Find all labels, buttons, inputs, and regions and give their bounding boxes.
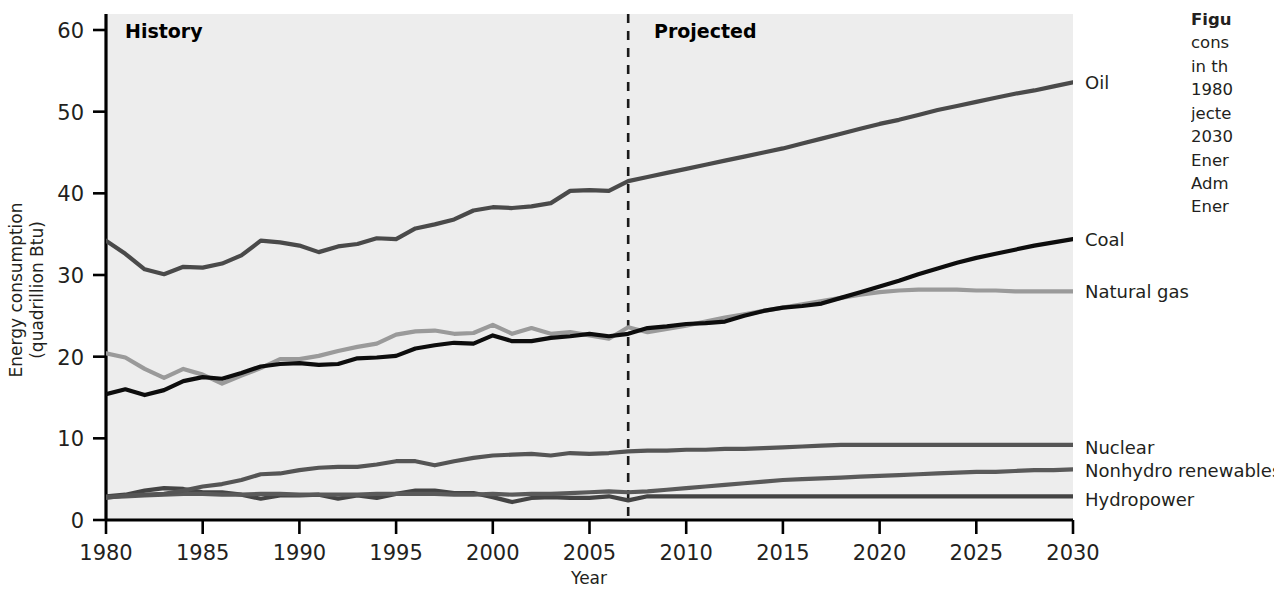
y-tick-label: 30 <box>57 264 84 288</box>
x-axis-ticks: 1980198519901995200020052010201520202025… <box>79 520 1099 565</box>
figure-caption: Figu cons in th 1980 jecte 2030 Ener Adm… <box>1191 8 1274 218</box>
y-tick-label: 40 <box>57 182 84 206</box>
y-tick-label: 20 <box>57 346 84 370</box>
caption-line-3: 1980 <box>1191 78 1274 101</box>
series-label-natural-gas: Natural gas <box>1085 281 1189 302</box>
series-label-nonhydro-renewables: Nonhydro renewables <box>1085 460 1274 481</box>
y-tick-label: 0 <box>71 509 84 533</box>
x-tick-label: 1990 <box>273 541 326 565</box>
series-label-coal: Coal <box>1085 229 1125 250</box>
x-tick-label: 2010 <box>659 541 712 565</box>
energy-consumption-line-chart: 0102030405060 19801985199019952000200520… <box>0 0 1274 593</box>
projected-label: Projected <box>654 20 757 42</box>
figure-root: 0102030405060 19801985199019952000200520… <box>0 0 1274 593</box>
x-tick-label: 2030 <box>1046 541 1099 565</box>
caption-line-5: 2030 <box>1191 125 1274 148</box>
x-tick-label: 2005 <box>563 541 616 565</box>
x-tick-label: 1980 <box>79 541 132 565</box>
x-tick-label: 2020 <box>853 541 906 565</box>
caption-line-6: Ener <box>1191 149 1274 172</box>
caption-line-2: in th <box>1191 55 1274 78</box>
x-axis-title: Year <box>570 568 607 588</box>
x-tick-label: 2015 <box>756 541 809 565</box>
y-axis-title-line1: Energy consumption <box>6 203 26 378</box>
caption-line-1: cons <box>1191 31 1274 54</box>
caption-line-0: Figu <box>1191 8 1274 31</box>
x-tick-label: 2025 <box>950 541 1003 565</box>
series-label-nuclear: Nuclear <box>1085 437 1155 458</box>
caption-line-7: Adm <box>1191 172 1274 195</box>
series-label-oil: Oil <box>1085 72 1109 93</box>
y-tick-label: 10 <box>57 427 84 451</box>
x-tick-label: 2000 <box>466 541 519 565</box>
x-tick-label: 1995 <box>369 541 422 565</box>
series-label-hydropower: Hydropower <box>1085 489 1195 510</box>
y-axis-title-line2: (quadrillion Btu) <box>27 221 47 359</box>
x-tick-label: 1985 <box>176 541 229 565</box>
y-axis-ticks: 0102030405060 <box>57 19 106 533</box>
caption-line-4: jecte <box>1191 102 1274 125</box>
history-label: History <box>125 20 203 42</box>
caption-line-8: Ener <box>1191 195 1274 218</box>
y-tick-label: 50 <box>57 101 84 125</box>
y-tick-label: 60 <box>57 19 84 43</box>
